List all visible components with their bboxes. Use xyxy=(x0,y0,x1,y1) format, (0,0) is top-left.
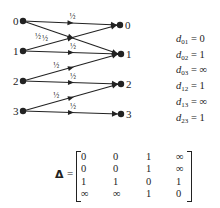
distance-value: = 1 xyxy=(188,112,204,123)
matrix-cell-3-2: 1 xyxy=(146,188,176,200)
matrix-cell-2-0: 1 xyxy=(81,176,113,188)
arrow-icon xyxy=(67,65,74,71)
distance-list: d01 = 0d02 = 1d03 = ∞d12 = 1d13 = ∞d23 =… xyxy=(176,33,207,127)
edge-weight-label: ½ xyxy=(53,91,59,100)
matrix-cell-1-3: ∞ xyxy=(176,163,187,175)
distance-value: = 0 xyxy=(188,33,204,44)
matrix-cell-1-1: 0 xyxy=(113,163,146,175)
matrix-cell-0-1: 0 xyxy=(113,151,146,163)
edge-weight-label: ½ xyxy=(70,12,76,21)
matrix-grid: 001∞001∞1101∞∞10 xyxy=(81,151,187,201)
distance-value: = ∞ xyxy=(188,96,207,107)
distance-value: = ∞ xyxy=(188,64,207,75)
edge-weight-label: ½ xyxy=(70,102,76,111)
distance-item: d01 = 0 xyxy=(176,33,207,49)
left-node-label: 2 xyxy=(13,75,19,87)
delta-symbol: Δ xyxy=(55,168,64,181)
right-node-label: 0 xyxy=(125,19,131,31)
matrix-cell-1-2: 1 xyxy=(146,163,176,175)
left-node-3 xyxy=(20,108,26,114)
arrow-icon xyxy=(68,80,74,85)
left-node-label: 3 xyxy=(13,105,19,117)
left-node-1 xyxy=(20,48,26,54)
equals-sign: = xyxy=(67,167,73,179)
matrix-cell-0-2: 1 xyxy=(146,151,176,163)
right-node-label: 3 xyxy=(126,108,132,120)
left-node-0 xyxy=(20,18,26,24)
edge-weight-label: ½ xyxy=(53,61,59,70)
matrix-cell-3-0: ∞ xyxy=(81,188,113,200)
right-node-0 xyxy=(117,22,123,28)
distance-item: d03 = ∞ xyxy=(176,64,207,80)
distance-matrix: Δ = 001∞001∞1101∞∞10 xyxy=(48,150,198,202)
matrix-cell-3-3: 0 xyxy=(176,188,187,200)
right-node-1 xyxy=(118,51,124,57)
right-node-label: 2 xyxy=(126,78,132,90)
edge-weight-label: ½ xyxy=(70,42,76,51)
left-node-label: 1 xyxy=(13,45,19,57)
arrow-icon xyxy=(68,50,74,55)
arrow-icon xyxy=(68,110,74,115)
left-node-2 xyxy=(20,78,26,84)
distance-item: d13 = ∞ xyxy=(176,96,207,112)
matrix-cell-2-2: 0 xyxy=(146,176,176,188)
distance-value: = 1 xyxy=(188,80,204,91)
right-node-label: 1 xyxy=(126,48,132,60)
matrix-cell-0-0: 0 xyxy=(81,151,113,163)
edge-3-3: ½ xyxy=(23,102,119,117)
edge-2-2: ½ xyxy=(23,72,119,87)
arrow-icon xyxy=(67,95,74,101)
right-bracket xyxy=(187,151,192,202)
distance-value: = 1 xyxy=(188,49,204,60)
edge-weight-label: ½ xyxy=(42,34,48,43)
distance-item: d12 = 1 xyxy=(176,80,207,96)
matrix-cell-2-3: 1 xyxy=(176,176,187,188)
left-node-label: 0 xyxy=(13,15,19,27)
matrix-cell-2-1: 1 xyxy=(113,176,146,188)
edge-weight-label: ½ xyxy=(70,72,76,81)
arrowhead-icon xyxy=(112,111,118,117)
matrix-cell-1-0: 0 xyxy=(81,163,113,175)
distance-item: d23 = 1 xyxy=(176,112,207,128)
right-node-2 xyxy=(118,81,124,87)
edge-weight-label: ½ xyxy=(35,32,41,41)
right-node-3 xyxy=(118,111,124,117)
matrix-cell-3-1: ∞ xyxy=(113,188,146,200)
matrix-cell-0-3: ∞ xyxy=(176,151,187,163)
arrow-icon xyxy=(67,20,73,25)
distance-item: d02 = 1 xyxy=(176,49,207,65)
